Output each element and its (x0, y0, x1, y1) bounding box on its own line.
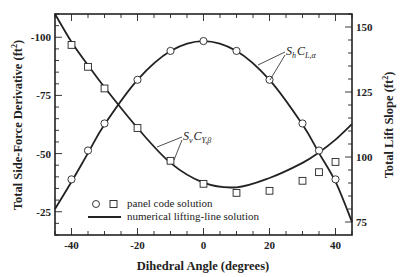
x-tick-label: -20 (130, 239, 145, 251)
legend: panel code solution numerical lifting-li… (88, 197, 259, 222)
data-markers (68, 37, 339, 196)
annotation-text: ShCL,α (286, 44, 316, 60)
circle-marker (68, 176, 75, 183)
y-tick-label-left: -100 (31, 31, 52, 43)
legend-label-lifting: numerical lifting-line solution (127, 210, 259, 222)
annotation-side-force: SvCY,β (157, 129, 211, 160)
legend-square-marker (110, 201, 117, 208)
x-tick-label: 0 (201, 239, 207, 251)
chart-canvas: -40-2002040-100-75-50-2515012510075 ShCL… (0, 0, 402, 277)
annotation-text: SvCY,β (183, 129, 211, 145)
square-marker (85, 63, 92, 70)
y-tick-label-right: 100 (356, 151, 373, 163)
circle-marker (233, 47, 240, 54)
legend-label-panel: panel code solution (127, 197, 213, 209)
circle-marker (332, 176, 339, 183)
square-marker (200, 180, 207, 187)
x-tick-label: -40 (64, 239, 79, 251)
legend-circle-marker (93, 201, 100, 208)
x-axis-title: Dihedral Angle (degrees) (137, 259, 269, 273)
x-tick-label: 20 (264, 239, 276, 251)
square-marker (68, 42, 75, 49)
y-tick-label-left: -25 (36, 206, 51, 218)
curves (55, 14, 352, 222)
y-tick-label-left: -50 (36, 148, 51, 160)
circle-marker (101, 120, 108, 127)
lift-slope-curve (55, 41, 352, 222)
circle-marker (200, 37, 207, 44)
square-marker (332, 159, 339, 166)
square-marker (299, 177, 306, 184)
leader-line (270, 55, 285, 80)
leader-line (174, 140, 182, 160)
circle-marker (299, 120, 306, 127)
circle-marker (167, 47, 174, 54)
circle-marker (315, 147, 322, 154)
x-tick-label: 40 (330, 239, 342, 251)
y-tick-label-right: 125 (356, 86, 373, 98)
square-marker (233, 189, 240, 196)
annotation-lift-slope: ShCL,α (258, 44, 316, 80)
circle-marker (84, 147, 91, 154)
y-tick-label-left: -75 (36, 89, 51, 101)
circle-marker (134, 76, 141, 83)
square-marker (266, 187, 273, 194)
y-axis-title-right: Total Lift Slope (ft2) (381, 72, 396, 179)
square-marker (167, 157, 174, 164)
y-tick-label-right: 75 (356, 216, 368, 228)
y-tick-label-right: 150 (356, 21, 373, 33)
leader-line (157, 137, 182, 147)
square-marker (134, 125, 141, 132)
square-marker (101, 85, 108, 92)
y-axis-title-left: Total Side-Force Derivative (ft2) (10, 40, 25, 210)
square-marker (316, 169, 323, 176)
leader-line (258, 52, 285, 65)
